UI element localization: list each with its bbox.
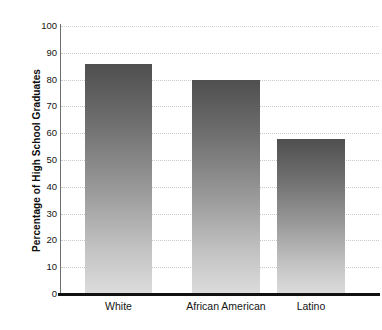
y-tick-label: 20 — [27, 235, 57, 245]
y-tick-label: 10 — [27, 262, 57, 272]
y-tick-label: 100 — [27, 21, 57, 31]
bars — [61, 26, 379, 294]
y-tick-label: 60 — [27, 128, 57, 138]
x-tick-label-white: White — [59, 300, 179, 312]
y-tick-label: 40 — [27, 182, 57, 192]
y-tick-label: 50 — [27, 155, 57, 165]
bar-latino — [277, 139, 345, 294]
bar-african-american — [192, 80, 260, 294]
y-tick-label: 70 — [27, 101, 57, 111]
y-tick-label: 0 — [27, 289, 57, 299]
x-axis-line — [58, 293, 380, 296]
x-tick-label-latino: Latino — [251, 300, 371, 312]
y-tick-label: 30 — [27, 209, 57, 219]
bar-chart: Percentage of High School Graduates 100 … — [0, 0, 382, 330]
x-axis-tick-labels: White African American Latino — [61, 300, 379, 320]
y-tick-label: 80 — [27, 75, 57, 85]
bar-white — [85, 64, 152, 294]
y-tick-label: 90 — [27, 48, 57, 58]
y-axis-line — [60, 24, 61, 295]
plot-area — [61, 26, 379, 294]
y-axis-tick-labels: 100 90 80 70 60 50 40 30 20 10 0 — [25, 0, 57, 330]
